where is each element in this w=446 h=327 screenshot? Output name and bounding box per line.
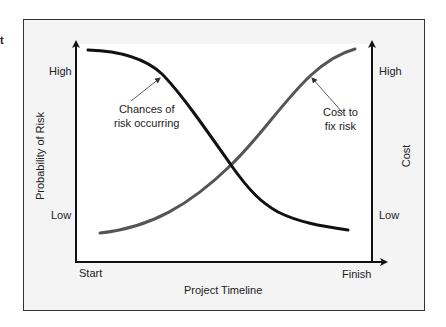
risk-cost-chart	[0, 0, 446, 327]
risk-annotation-line1: Chances of	[114, 102, 179, 116]
left-low-label: Low	[51, 209, 71, 222]
x-axis-title: Project Timeline	[184, 284, 262, 297]
risk-annotation-line2: risk occurring	[114, 116, 179, 130]
x-finish-label: Finish	[342, 268, 371, 281]
left-high-label: High	[49, 65, 72, 78]
x-start-label: Start	[79, 267, 102, 280]
cost-annotation-line2: fix risk	[323, 119, 358, 133]
cost-annotation: Cost to fix risk	[323, 105, 358, 133]
right-low-label: Low	[379, 209, 399, 222]
y-right-axis-title: Cost	[400, 141, 412, 171]
right-high-label: High	[379, 65, 402, 78]
cost-annotation-line1: Cost to	[323, 105, 358, 119]
y-left-axis-title: Probability of Risk	[34, 106, 46, 206]
risk-annotation: Chances of risk occurring	[114, 102, 179, 130]
